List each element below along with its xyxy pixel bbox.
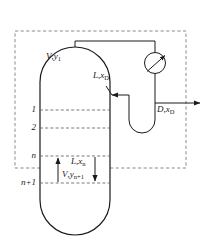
distillation-column-diagram: V,y1 L,xD D,xD L,xn V,yn+1 1 2 n n+1	[0, 0, 206, 244]
label-liquid-down: L,xn	[71, 157, 86, 166]
label-distillate: D,xD	[157, 105, 174, 114]
label-vapor-overhead: V,y1	[46, 52, 61, 61]
stage-label-2: 2	[24, 123, 36, 132]
label-vapor-up-subscript: n+1	[74, 173, 84, 180]
condenser	[145, 53, 166, 74]
stage-label-n: n	[24, 151, 36, 160]
stage-label-n-plus-1: n+1	[8, 178, 36, 187]
label-vapor-up: V,yn+1	[62, 170, 84, 179]
label-reflux: L,xD	[93, 71, 109, 80]
label-reflux-subscript: D	[104, 74, 109, 81]
diagram-canvas	[0, 0, 206, 244]
label-liquid-down-subscript: n	[82, 160, 85, 167]
stage-label-1: 1	[24, 105, 36, 114]
label-vapor-overhead-subscript: 1	[58, 55, 61, 62]
reflux-drum	[129, 95, 155, 133]
label-distillate-subscript: D	[170, 108, 175, 115]
